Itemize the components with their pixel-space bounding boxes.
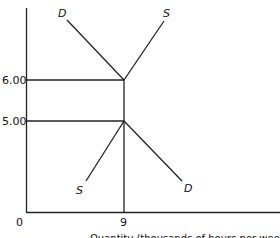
demand-curve-lower: [124, 121, 182, 181]
label-s-lower: S: [76, 184, 83, 197]
y-tick-6: 6.00: [2, 74, 27, 87]
x-tick-0: 0: [16, 216, 23, 229]
label-d-lower: D: [184, 182, 192, 195]
y-tick-5: 5.00: [2, 115, 27, 128]
supply-curve-upper: [124, 21, 164, 80]
demand-curve-upper: [67, 20, 124, 80]
label-d-upper: D: [58, 7, 66, 20]
x-axis-label: Quantity (thousands of hours per week): [90, 233, 280, 238]
label-s-upper: S: [163, 7, 170, 20]
x-tick-9: 9: [120, 216, 127, 229]
supply-demand-chart: D S S D 6.00 5.00 0 9 Quantity (thousand…: [0, 0, 280, 238]
supply-curve-lower: [86, 121, 124, 181]
